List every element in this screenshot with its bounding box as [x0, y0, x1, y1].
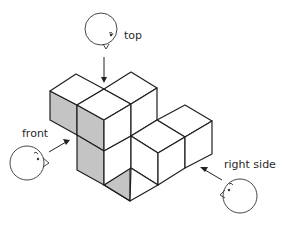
top-viewer-eye	[110, 34, 112, 36]
right-viewer-head	[223, 179, 257, 213]
right-viewer: right side	[200, 158, 276, 213]
top-label: top	[124, 29, 142, 42]
front-viewer-head	[10, 146, 44, 180]
cube-solid	[50, 72, 212, 201]
top-viewer: top	[85, 13, 142, 83]
front-viewer-eye	[37, 158, 39, 160]
right-side-label: right side	[224, 158, 276, 171]
cube-diagram: top front right side	[0, 0, 282, 229]
top-viewer-nose	[103, 44, 109, 49]
top-arrow-head	[101, 77, 107, 83]
right-arrow	[205, 170, 222, 180]
right-viewer-eyebrow	[229, 183, 233, 185]
top-viewer-head	[85, 13, 117, 45]
front-viewer: front	[10, 127, 70, 180]
front-arrow	[49, 142, 66, 152]
front-arrow-head	[63, 139, 70, 145]
front-viewer-eyebrow	[34, 152, 38, 154]
right-viewer-eye	[228, 189, 230, 191]
right-viewer-nose	[220, 190, 225, 198]
front-label: front	[22, 127, 49, 140]
